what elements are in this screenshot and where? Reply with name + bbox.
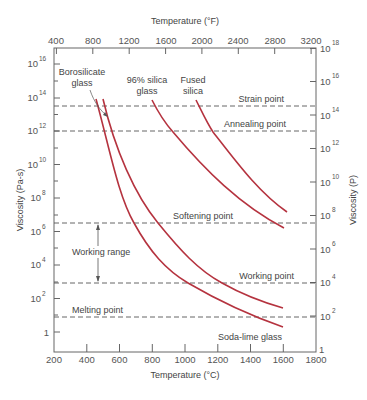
svg-text:Annealing point: Annealing point [224,119,287,129]
svg-text:4: 4 [332,273,336,280]
svg-text:8: 8 [332,206,336,213]
svg-text:10: 10 [27,58,38,69]
svg-text:1600: 1600 [155,35,176,46]
svg-text:8: 8 [42,189,46,196]
viscosity-temperature-chart: Temperature (°F) 400 800 1200 1600 2000 … [0,0,367,400]
y2-axis-ticks [310,49,316,317]
svg-text:2800: 2800 [264,35,285,46]
x-axis-ticks [87,344,283,352]
svg-text:10: 10 [30,259,41,270]
svg-text:14: 14 [39,89,47,96]
svg-text:Melting point: Melting point [72,305,124,315]
y-axis-ticks [54,64,60,332]
svg-text:1200: 1200 [118,35,139,46]
svg-text:Soda-lime glass: Soda-lime glass [218,332,283,342]
svg-text:Working range: Working range [72,247,130,257]
svg-text:10: 10 [332,173,340,180]
svg-text:10: 10 [320,143,331,154]
svg-text:10: 10 [27,125,38,136]
svg-text:10: 10 [27,92,38,103]
arrow-down-icon [96,276,100,282]
svg-text:400: 400 [79,354,95,365]
svg-text:16: 16 [332,72,340,79]
svg-text:10: 10 [320,110,331,121]
svg-text:10: 10 [320,43,331,54]
svg-text:3200: 3200 [300,35,321,46]
svg-text:1: 1 [44,327,49,338]
svg-text:800: 800 [144,354,160,365]
svg-text:10: 10 [320,210,331,221]
svg-text:600: 600 [112,354,128,365]
svg-text:200: 200 [46,354,62,365]
x-axis-labels: 200 400 600 800 1000 1200 1400 1600 1800 [46,354,327,365]
svg-text:400: 400 [48,35,64,46]
y2-axis-title: Viscosity (P) [348,175,358,225]
svg-text:Softening point: Softening point [173,211,234,221]
svg-text:glass: glass [71,78,93,88]
svg-text:12: 12 [39,122,47,129]
svg-text:1000: 1000 [174,354,195,365]
x2-axis-ticks [56,48,311,54]
reference-labels: Strain point Annealing point Softening p… [72,94,294,315]
svg-text:18: 18 [332,39,340,46]
arrow-up-icon [96,224,100,230]
fused-silica-curve [196,100,287,212]
svg-text:10: 10 [320,311,331,322]
x2-axis-title: Temperature (°F) [151,16,219,26]
svg-text:96% silica: 96% silica [127,75,168,85]
svg-text:1600: 1600 [273,354,294,365]
svg-text:10: 10 [27,159,38,170]
curve-annotations: Borosilicate glass 96% silica glass Fuse… [59,67,283,342]
svg-text:2: 2 [332,307,336,314]
svg-text:Strain point: Strain point [238,94,284,104]
svg-text:1800: 1800 [305,354,326,365]
x2-axis-labels: 400 800 1200 1600 2000 2400 2800 3200 [48,35,322,46]
svg-text:10: 10 [320,277,331,288]
svg-text:10: 10 [320,177,331,188]
svg-text:1: 1 [319,344,324,355]
svg-text:2: 2 [42,290,46,297]
svg-text:Working point: Working point [239,271,294,281]
svg-text:6: 6 [332,240,336,247]
svg-text:10: 10 [30,293,41,304]
svg-text:12: 12 [332,139,340,146]
svg-text:2000: 2000 [191,35,212,46]
svg-text:14: 14 [332,106,340,113]
svg-text:2400: 2400 [227,35,248,46]
svg-text:glass: glass [136,86,158,96]
svg-text:silica: silica [183,86,203,96]
svg-text:10: 10 [30,192,41,203]
y-axis-labels: 1016 1014 1012 1010 108 106 104 102 1 [27,55,49,338]
svg-text:1400: 1400 [240,354,261,365]
svg-text:6: 6 [42,223,46,230]
svg-text:1200: 1200 [207,354,228,365]
svg-text:4: 4 [42,256,46,263]
svg-text:Borosilicate: Borosilicate [59,67,106,77]
svg-text:10: 10 [320,76,331,87]
svg-text:Fused: Fused [180,75,205,85]
y-axis-title: Viscosity (Pa-s) [15,169,25,231]
working-range-indicator: Working range [68,224,130,282]
svg-text:10: 10 [320,244,331,255]
svg-text:16: 16 [39,55,47,62]
x-axis-title: Temperature (°C) [150,370,219,380]
svg-text:10: 10 [39,156,47,163]
svg-text:10: 10 [30,226,41,237]
y2-axis-labels: 1018 1016 1014 1012 1010 108 106 104 102… [319,39,340,355]
svg-text:800: 800 [85,35,101,46]
